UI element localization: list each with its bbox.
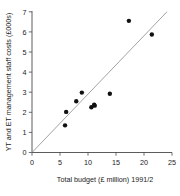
data-point	[150, 32, 154, 36]
data-point	[64, 110, 68, 114]
y-tick-label: 3	[23, 88, 27, 97]
data-point	[93, 103, 97, 107]
data-point	[80, 90, 84, 94]
x-tick-label: 20	[140, 158, 148, 167]
x-tick-label: 15	[112, 158, 120, 167]
y-tick-marks	[29, 12, 32, 153]
data-point	[108, 92, 112, 96]
x-tick-label: 25	[168, 158, 176, 167]
x-tick-marks	[32, 153, 172, 156]
x-tick-labels: 0 5 10 15 20 25	[30, 158, 176, 167]
data-point	[63, 123, 67, 127]
y-tick-label: 7	[23, 8, 27, 17]
x-tick-label: 0	[30, 158, 34, 167]
y-tick-label: 4	[23, 68, 27, 77]
plot-area: 0 1 2 3 4 5 6 7 0 5 10 15 20 25 T	[0, 0, 180, 196]
data-series-layer	[32, 12, 167, 153]
y-tick-labels: 0 1 2 3 4 5 6 7	[23, 8, 27, 158]
y-tick-label: 2	[23, 108, 27, 117]
y-tick-label: 6	[23, 28, 27, 37]
trend-line	[32, 12, 167, 153]
data-point	[74, 99, 78, 103]
y-tick-label: 0	[23, 148, 27, 157]
data-point	[127, 19, 131, 23]
y-tick-label: 1	[23, 128, 27, 137]
x-tick-label: 5	[58, 158, 62, 167]
x-tick-label: 10	[84, 158, 92, 167]
scatter-chart: 0 1 2 3 4 5 6 7 0 5 10 15 20 25 T	[0, 0, 180, 196]
y-tick-label: 5	[23, 48, 27, 57]
x-axis-title: Total budget (£ million) 1991/2	[57, 175, 153, 184]
y-axis-title: YT and ET management staff costs (£000s)	[4, 13, 13, 152]
